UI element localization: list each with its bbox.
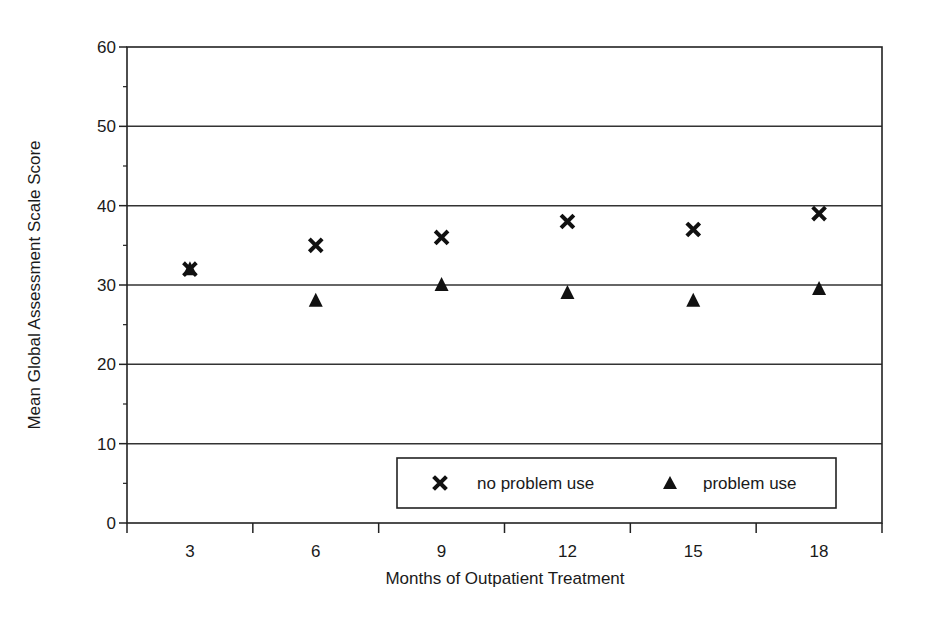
x-marker-icon: [437, 232, 447, 242]
x-axis-label: Months of Outpatient Treatment: [385, 569, 624, 588]
y-tick-label: 0: [107, 514, 116, 533]
y-tick-label: 10: [97, 435, 116, 454]
y-tick-label: 60: [97, 38, 116, 57]
y-tick-label: 20: [97, 355, 116, 374]
triangle-marker-icon: [435, 277, 449, 291]
y-axis: 0102030405060: [97, 38, 127, 533]
triangle-marker-icon: [560, 285, 574, 299]
y-tick-label: 30: [97, 276, 116, 295]
x-tick-label: 15: [684, 542, 703, 561]
y-tick-label: 50: [97, 117, 116, 136]
triangle-marker-icon: [812, 281, 826, 295]
x-marker-icon: [688, 224, 698, 234]
x-marker-icon: [814, 209, 824, 219]
x-tick-label: 3: [185, 542, 194, 561]
y-axis-label: Mean Global Assessment Scale Score: [25, 140, 44, 429]
x-tick-label: 12: [558, 542, 577, 561]
triangle-marker-icon: [686, 293, 700, 307]
x-tick-label: 9: [437, 542, 446, 561]
x-marker-icon: [311, 240, 321, 250]
x-marker-icon: [562, 217, 572, 227]
gridlines: [127, 126, 882, 443]
legend-label-problem-use: problem use: [703, 474, 797, 493]
x-tick-label: 18: [810, 542, 829, 561]
legend: no problem use problem use: [397, 458, 836, 508]
chart: 0102030405060 369121518 Mean Global Asse…: [0, 0, 928, 622]
triangle-marker-icon: [309, 293, 323, 307]
data-points: [183, 209, 826, 307]
y-tick-label: 40: [97, 197, 116, 216]
legend-label-no-problem-use: no problem use: [477, 474, 594, 493]
x-tick-label: 6: [311, 542, 320, 561]
x-axis: 369121518: [127, 523, 882, 561]
